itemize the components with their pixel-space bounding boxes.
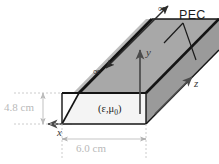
waveguide-figure: ∞ ∞ PEC y z x (ε,μ0) 4.8 cm 6.0 cm (0, 0, 219, 164)
waveguide-drawing (0, 0, 219, 164)
